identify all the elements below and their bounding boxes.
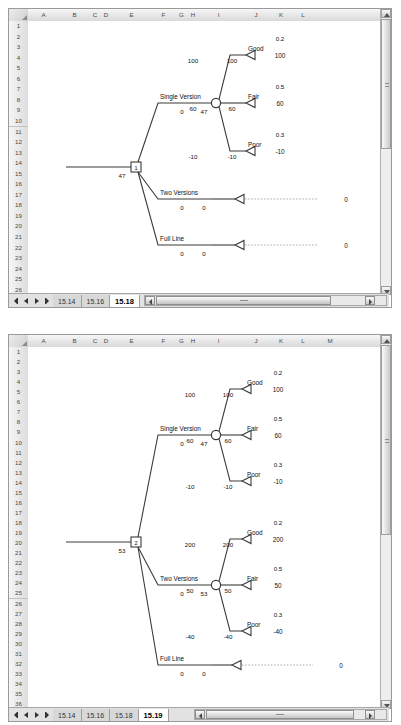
excel-window-top: ABCDEFGHIJKL 123456789101112131415161718…	[0, 6, 401, 308]
sheet-tab-15-18[interactable]: 15.18	[110, 295, 140, 307]
spreadsheet-frame-bottom: ABCDEFGHIJKLM 12345678910111213141516171…	[8, 334, 392, 722]
column-header-e[interactable]: E	[112, 9, 152, 21]
horizontal-scroll-thumb[interactable]	[206, 710, 354, 719]
svg-text:47: 47	[201, 108, 208, 115]
svg-text:0: 0	[202, 250, 206, 257]
sheet-tab-15-19[interactable]: 15.19	[139, 709, 169, 721]
svg-text:0: 0	[344, 242, 348, 249]
scroll-left-button[interactable]	[145, 296, 155, 305]
column-header-a[interactable]: A	[28, 9, 60, 21]
horizontal-scroll-thumb[interactable]	[156, 296, 331, 305]
previous-sheet-button[interactable]	[23, 297, 30, 305]
svg-text:-10: -10	[186, 483, 196, 490]
column-header-b[interactable]: B	[59, 9, 91, 21]
sheet-tab-15-16[interactable]: 15.16	[82, 295, 111, 307]
first-sheet-button[interactable]	[13, 297, 20, 305]
svg-text:Fair: Fair	[247, 575, 259, 582]
svg-text:Two Versions: Two Versions	[160, 575, 198, 582]
horizontal-scrollbar-bottom[interactable]	[194, 709, 387, 720]
sheet-canvas-top[interactable]: 147Single Version0470.2Good1001001000.5F…	[28, 21, 380, 295]
column-header-filler	[342, 335, 381, 347]
svg-text:-40: -40	[273, 628, 283, 635]
svg-text:60: 60	[229, 105, 236, 112]
row-header-col-top: 1234567891011121314151617181920212223242…	[9, 21, 29, 295]
column-header-k[interactable]: K	[274, 335, 289, 347]
column-header-filler	[318, 9, 381, 21]
svg-text:50: 50	[225, 587, 232, 594]
sheet-tab-15-14[interactable]: 15.14	[53, 709, 82, 721]
svg-text:0: 0	[180, 204, 184, 211]
vertical-scroll-thumb[interactable]	[381, 19, 391, 149]
svg-text:Fair: Fair	[248, 93, 260, 100]
svg-text:50: 50	[187, 587, 194, 594]
row-header-col-bottom: 1234567891011121314151617181920212223242…	[9, 347, 29, 709]
column-header-b[interactable]: B	[59, 335, 91, 347]
scroll-up-button[interactable]	[381, 335, 391, 344]
column-header-i[interactable]: I	[199, 9, 239, 21]
column-header-m[interactable]: M	[318, 335, 343, 347]
svg-text:100: 100	[227, 57, 238, 64]
svg-text:0.2: 0.2	[274, 519, 283, 526]
column-header-j[interactable]: J	[238, 9, 275, 21]
grip-line	[385, 442, 389, 443]
last-sheet-button[interactable]	[43, 297, 50, 305]
svg-text:60: 60	[274, 432, 282, 439]
svg-text:2: 2	[134, 540, 137, 546]
column-header-f[interactable]: F	[151, 9, 177, 21]
svg-text:0: 0	[180, 670, 184, 677]
first-sheet-button[interactable]	[13, 711, 20, 719]
chevron-up-icon	[384, 13, 390, 17]
sheet-canvas-bottom[interactable]: 253Single Version0470.2Good1001001000.5F…	[28, 347, 380, 709]
column-header-e[interactable]: E	[112, 335, 152, 347]
svg-text:0.2: 0.2	[274, 369, 283, 376]
svg-text:0: 0	[202, 204, 206, 211]
vertical-scroll-thumb[interactable]	[381, 345, 391, 535]
svg-text:100: 100	[223, 391, 234, 398]
scroll-right-button[interactable]	[365, 296, 375, 305]
svg-text:100: 100	[185, 391, 196, 398]
svg-text:0.2: 0.2	[276, 35, 285, 42]
sheet-nav-buttons	[10, 295, 53, 306]
column-header-i[interactable]: I	[199, 335, 239, 347]
sheet-tab-15-16[interactable]: 15.16	[82, 709, 111, 721]
sheet-tabs-top: 15.1415.1615.18	[53, 294, 140, 307]
sheet-tab-15-18[interactable]: 15.18	[110, 709, 139, 721]
scroll-up-button[interactable]	[381, 9, 391, 18]
svg-text:100: 100	[273, 386, 284, 393]
sheet-tab-15-14[interactable]: 15.14	[53, 295, 82, 307]
svg-text:0: 0	[180, 250, 184, 257]
scroll-right-button[interactable]	[365, 710, 375, 719]
svg-text:-10: -10	[275, 148, 285, 155]
horizontal-scrollbar-top[interactable]	[144, 295, 387, 306]
column-header-a[interactable]: A	[28, 335, 60, 347]
vertical-scrollbar-bottom[interactable]	[380, 335, 391, 709]
column-header-j[interactable]: J	[238, 335, 275, 347]
svg-text:60: 60	[225, 437, 232, 444]
next-sheet-button[interactable]	[33, 297, 40, 305]
column-header-l[interactable]: L	[288, 9, 319, 21]
svg-text:0.5: 0.5	[274, 565, 283, 572]
svg-text:53: 53	[201, 590, 208, 597]
vertical-scrollbar-top[interactable]	[380, 9, 391, 295]
svg-text:-40: -40	[224, 633, 234, 640]
last-sheet-button[interactable]	[43, 711, 50, 719]
svg-text:47: 47	[201, 440, 208, 447]
svg-text:Fair: Fair	[247, 425, 259, 432]
svg-text:47: 47	[119, 172, 126, 179]
next-sheet-button[interactable]	[33, 711, 40, 719]
spreadsheet-frame-top: ABCDEFGHIJKL 123456789101112131415161718…	[8, 8, 392, 308]
previous-sheet-button[interactable]	[23, 711, 30, 719]
svg-text:-10: -10	[224, 483, 234, 490]
svg-text:0.3: 0.3	[274, 461, 283, 468]
grip-line	[276, 714, 284, 715]
column-header-k[interactable]: K	[274, 9, 289, 21]
grip-line	[385, 83, 389, 84]
column-header-l[interactable]: L	[288, 335, 319, 347]
column-header-f[interactable]: F	[151, 335, 177, 347]
svg-text:Poor: Poor	[248, 141, 262, 148]
svg-text:100: 100	[275, 52, 286, 59]
excel-window-bottom: ABCDEFGHIJKLM 12345678910111213141516171…	[0, 332, 401, 722]
svg-text:100: 100	[188, 57, 199, 64]
svg-text:0: 0	[180, 440, 184, 447]
scroll-left-button[interactable]	[195, 710, 205, 719]
